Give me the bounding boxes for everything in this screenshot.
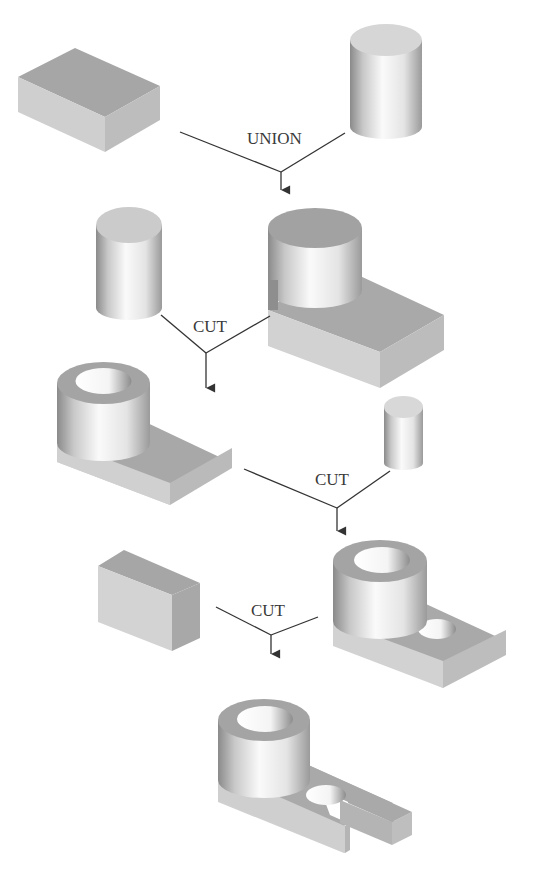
cylinder-primitive-cutter	[96, 207, 162, 320]
cut-operation-2: CUT	[244, 469, 390, 531]
cut-label-1: CUT	[193, 317, 228, 336]
union-result-solid	[268, 208, 444, 388]
cut-operation-1: CUT	[161, 315, 270, 388]
block-primitive-cutter	[98, 550, 200, 651]
cut-operation-3: CUT	[216, 601, 318, 654]
cylinder-primitive-large	[350, 24, 422, 139]
union-operation: UNION	[180, 129, 345, 190]
rect-block-primitive	[18, 48, 160, 152]
cut-label-2: CUT	[315, 470, 350, 489]
cut-label-3: CUT	[251, 601, 286, 620]
union-label: UNION	[247, 129, 302, 148]
cylinder-primitive-small	[384, 396, 423, 470]
tube-plate-with-hole-solid	[333, 540, 506, 688]
final-slotted-bracket	[218, 699, 412, 853]
csg-diagram: UNION CUT	[0, 0, 534, 879]
